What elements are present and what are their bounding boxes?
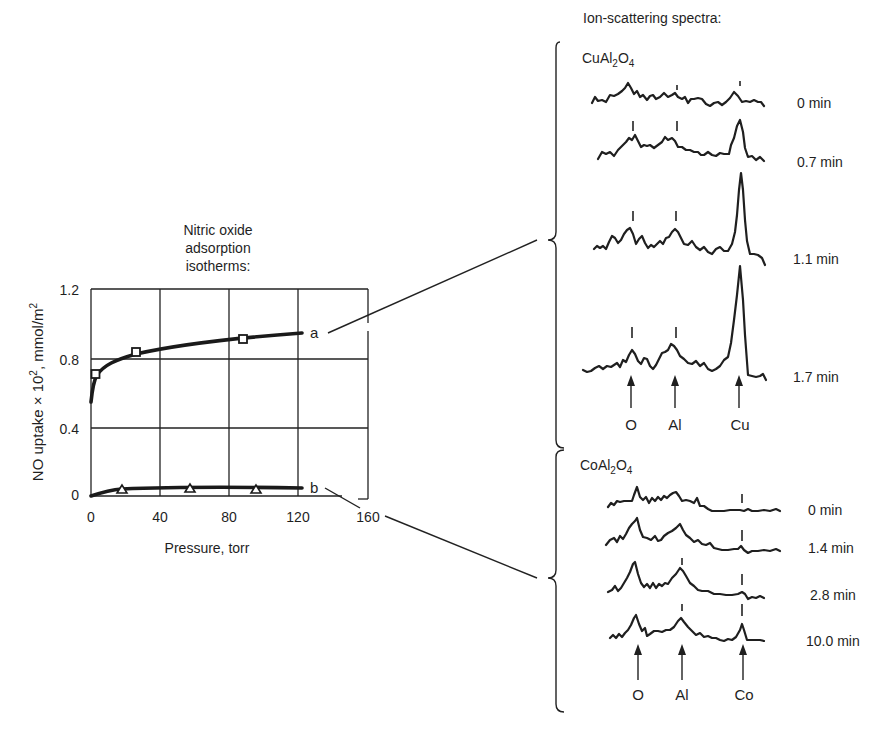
- brace-coalo: [548, 450, 564, 712]
- peak-arrows-co: [634, 644, 747, 680]
- connector-b-to-co: [385, 516, 537, 578]
- peak-label-o: O: [632, 686, 644, 703]
- compound-label-cualo: CuAl2O4: [582, 50, 635, 69]
- marker-a-2: [132, 348, 140, 356]
- peak-label-o: O: [625, 416, 637, 433]
- x-axis-label: Pressure, torr: [165, 540, 250, 556]
- arrow-up-icon: [671, 375, 679, 386]
- y-tick-0.8: 0.8: [60, 352, 80, 368]
- marker-a-3: [239, 335, 247, 343]
- y-tick-0.4: 0.4: [60, 421, 80, 437]
- spectrum-cu-0.7min: [598, 120, 764, 161]
- arrow-up-icon: [634, 644, 642, 655]
- peak-label-co: Co: [734, 686, 753, 703]
- arrow-up-icon: [678, 644, 686, 655]
- spectra-group-coalo: CoAl2O4 0 min 1.4 min 2.8 min 10.0 min O…: [580, 457, 860, 703]
- spectra-title: Ion-scattering spectra:: [583, 10, 722, 26]
- arrow-up-icon: [627, 375, 635, 386]
- connector-a-to-cu: [328, 240, 537, 333]
- x-tick-80: 80: [221, 509, 237, 525]
- trace-label-co-10: 10.0 min: [806, 633, 860, 649]
- x-tick-120: 120: [286, 509, 310, 525]
- arrow-up-icon: [739, 644, 747, 655]
- trace-label-cu-0.7: 0.7 min: [797, 154, 843, 170]
- y-axis-label: NO uptake × 102, mmol/m2: [28, 302, 46, 481]
- curve-a: [91, 333, 302, 402]
- peak-arrows-cu: [627, 375, 743, 408]
- curve-a-label: a: [310, 324, 319, 341]
- chart-title-line-3: isotherms:: [186, 258, 251, 274]
- plot-grid: [91, 289, 368, 499]
- trace-label-cu-1.1: 1.1 min: [793, 251, 839, 267]
- x-tick-0: 0: [87, 509, 95, 525]
- spectrum-co-2.8min: [608, 562, 764, 599]
- trace-label-co-0: 0 min: [808, 502, 842, 518]
- curve-b-label: b: [310, 479, 318, 496]
- spectrum-cu-1.7min: [583, 266, 766, 380]
- marker-a-1: [92, 370, 100, 378]
- chart-title-line-2: adsorption: [185, 240, 250, 256]
- compound-label-coalo: CoAl2O4: [580, 457, 633, 476]
- arrow-up-icon: [735, 375, 743, 386]
- connector-b-short: [325, 488, 360, 508]
- spectra-group-cualo: CuAl2O4 0 min 0.7 min 1.1 min 1.7 min: [582, 50, 843, 433]
- y-tick-1.2: 1.2: [60, 282, 80, 298]
- spectrum-co-1.4min: [606, 518, 780, 553]
- trace-label-cu-1.7: 1.7 min: [793, 369, 839, 385]
- peak-label-al: Al: [668, 416, 681, 433]
- spectrum-cu-1.1min: [594, 173, 765, 265]
- chart-title-line-1: Nitric oxide: [183, 222, 252, 238]
- peak-label-cu: Cu: [730, 416, 749, 433]
- x-tick-40: 40: [152, 509, 168, 525]
- trace-label-co-1.4: 1.4 min: [808, 540, 854, 556]
- x-tick-160: 160: [356, 509, 380, 525]
- peak-label-al: Al: [675, 686, 688, 703]
- brace-cualo: [548, 42, 564, 448]
- spectrum-co-10min: [610, 615, 764, 641]
- trace-label-cu-0: 0 min: [797, 95, 831, 111]
- isotherm-chart: Nitric oxide adsorption isotherms: NO up…: [28, 222, 380, 556]
- figure-canvas: Nitric oxide adsorption isotherms: NO up…: [0, 0, 884, 737]
- spectrum-cu-0min: [592, 83, 764, 106]
- trace-label-co-2.8: 2.8 min: [810, 587, 856, 603]
- y-tick-0: 0: [71, 487, 79, 503]
- spectrum-co-0min: [608, 487, 780, 511]
